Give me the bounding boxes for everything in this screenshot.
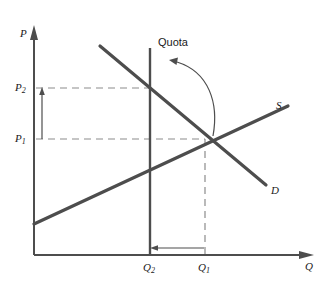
demand-curve-label: D <box>271 185 279 196</box>
x-axis-arrowhead <box>299 251 314 259</box>
quantity-eq-letter: Q <box>198 261 206 273</box>
quantity-quota-label: Q2 <box>143 262 155 275</box>
y-axis-label: P <box>20 28 27 39</box>
price-low-letter: P <box>15 132 22 144</box>
price-high-label: P2 <box>15 82 26 95</box>
supply-curve-label: S <box>276 100 282 111</box>
price-high-subscript: 2 <box>22 86 26 95</box>
annotation-arrows-group <box>39 58 214 251</box>
curves-group <box>34 46 288 255</box>
quantity-eq-subscript: 1 <box>206 266 210 275</box>
quantity-quota-letter: Q <box>143 261 151 273</box>
quota-label: Quota <box>158 37 188 48</box>
demand-curve <box>100 46 266 185</box>
price-high-letter: P <box>15 81 22 93</box>
quota-supply-demand-diagram: P Q P2 P1 Q2 Q1 S D Quota <box>0 0 324 289</box>
quantity-eq-label: Q1 <box>198 262 210 275</box>
quantity-quota-subscript: 2 <box>151 266 155 275</box>
x-axis-label: Q <box>305 261 313 272</box>
price-low-subscript: 1 <box>22 137 26 146</box>
price-low-label: P1 <box>15 133 26 146</box>
quota-callout-arrowhead <box>169 58 178 66</box>
supply-curve <box>34 106 288 224</box>
y-axis-arrowhead <box>30 25 38 40</box>
